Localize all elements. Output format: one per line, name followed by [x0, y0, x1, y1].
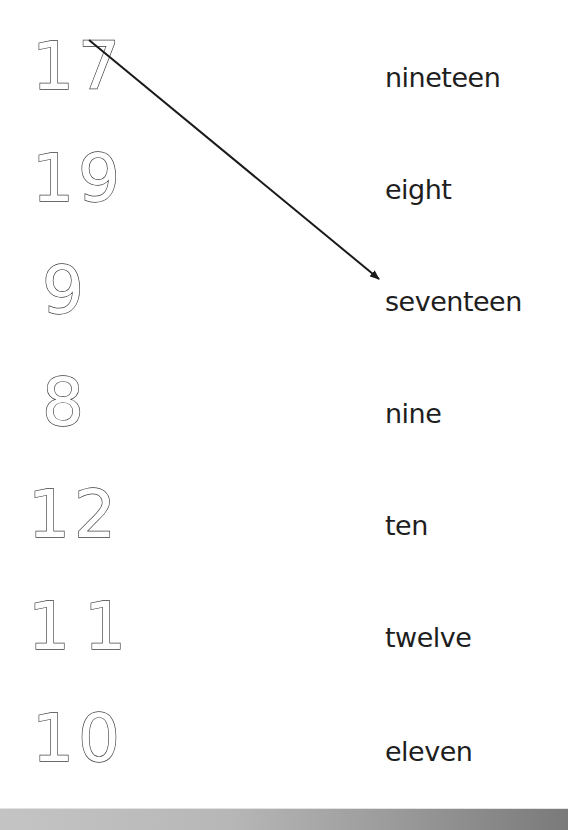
number-label: 17: [32, 28, 124, 105]
number-item-11[interactable]: 11: [28, 594, 138, 654]
word-item-nineteen[interactable]: nineteen: [385, 64, 500, 91]
word-item-nine[interactable]: nine: [385, 400, 441, 427]
number-item-12[interactable]: 12: [28, 482, 138, 542]
number-label: 10: [32, 700, 124, 777]
number-label: 9: [42, 252, 88, 329]
bottom-gradient-bar: [0, 808, 568, 830]
word-item-eight[interactable]: eight: [385, 176, 451, 203]
word-item-twelve[interactable]: twelve: [385, 624, 471, 651]
number-item-17[interactable]: 17: [28, 34, 138, 94]
number-item-8[interactable]: 8: [28, 370, 138, 430]
number-item-9[interactable]: 9: [28, 258, 138, 318]
word-item-eleven[interactable]: eleven: [385, 738, 472, 765]
number-label: 12: [28, 476, 120, 553]
word-item-seventeen[interactable]: seventeen: [385, 288, 522, 315]
number-label: 11: [28, 588, 140, 665]
number-label: 8: [42, 364, 88, 441]
number-word-matching-worksheet: 17 19 9 8 12 11 10 nineteen eight sevent…: [0, 0, 568, 808]
word-item-ten[interactable]: ten: [385, 512, 428, 539]
number-label: 19: [32, 140, 124, 217]
number-item-19[interactable]: 19: [28, 146, 138, 206]
number-item-10[interactable]: 10: [28, 706, 138, 766]
